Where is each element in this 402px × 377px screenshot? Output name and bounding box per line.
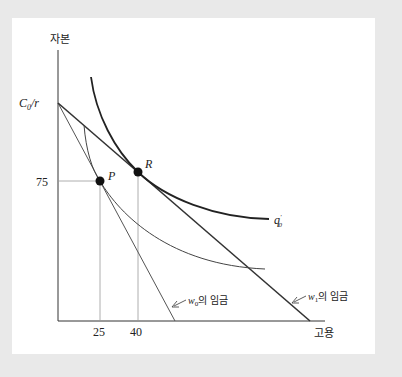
x-tick-40: 40 xyxy=(130,325,142,339)
x-axis-label: 고용 xyxy=(314,327,334,339)
y-tick-75: 75 xyxy=(36,175,48,189)
x-tick-25: 25 xyxy=(93,325,105,339)
point-r xyxy=(134,168,143,177)
point-p-label: P xyxy=(107,169,116,183)
isocost-line-w0 xyxy=(58,103,175,321)
point-r-label: R xyxy=(144,157,153,171)
isoquant-label: q'0 xyxy=(274,213,283,229)
isoquant-q0-prime xyxy=(91,77,269,219)
cost-minimization-diagram: 자본 고용 C0/r 75 25 40 P R q'0 w0의 임금 w1의 임… xyxy=(0,0,402,377)
w1-label: w1의 임금 xyxy=(308,290,348,304)
w0-label: w0의 임금 xyxy=(188,294,228,308)
point-p xyxy=(96,177,105,186)
y-intercept-label: C0/r xyxy=(19,96,39,112)
y-axis-label: 자본 xyxy=(50,33,70,45)
isocost-line-w1 xyxy=(58,103,310,321)
